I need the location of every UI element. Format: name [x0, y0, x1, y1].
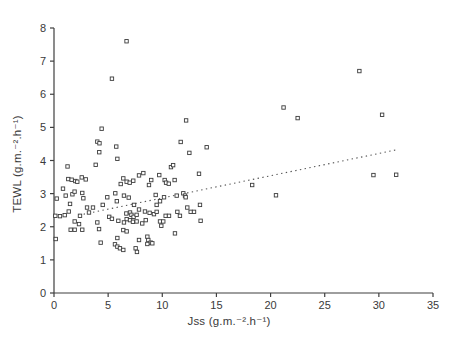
data-point	[148, 211, 151, 214]
data-point	[141, 222, 144, 225]
data-point	[61, 187, 64, 190]
data-point	[189, 210, 192, 213]
data-point	[116, 157, 119, 160]
data-point	[99, 241, 102, 244]
data-point	[155, 210, 158, 213]
data-point	[80, 176, 83, 179]
data-point	[137, 208, 140, 211]
data-point	[162, 220, 165, 223]
data-point	[116, 236, 119, 239]
data-point	[106, 196, 109, 199]
y-tick-label: 8	[40, 22, 46, 34]
data-point	[125, 230, 128, 233]
data-point	[73, 228, 76, 231]
data-point	[122, 177, 125, 180]
data-point	[122, 228, 125, 231]
data-point	[78, 214, 81, 217]
data-point	[358, 69, 361, 72]
data-point	[127, 196, 130, 199]
data-point	[176, 210, 179, 213]
data-point	[167, 182, 170, 185]
x-axis-label: Jss (g.m.⁻².h⁻¹)	[0, 314, 458, 328]
data-point	[142, 171, 145, 174]
data-point	[54, 214, 57, 217]
data-point	[155, 203, 158, 206]
data-point	[137, 174, 140, 177]
data-point	[274, 194, 277, 197]
data-point	[73, 220, 76, 223]
data-point	[184, 119, 187, 122]
data-point	[135, 250, 138, 253]
data-point	[175, 194, 178, 197]
data-point	[162, 196, 165, 199]
plot-canvas: 05101520253035012345678	[0, 0, 458, 340]
y-tick-label: 6	[40, 88, 46, 100]
x-tick-label: 15	[210, 299, 222, 311]
data-point	[296, 116, 299, 119]
data-point	[94, 163, 97, 166]
data-point	[82, 197, 85, 200]
y-tick-label: 0	[40, 287, 46, 299]
data-point	[160, 224, 163, 227]
data-point	[186, 206, 189, 209]
x-tick-label: 10	[156, 299, 168, 311]
data-point	[76, 180, 79, 183]
scatter-plot-figure: 05101520253035012345678 Jss (g.m.⁻².h⁻¹)…	[0, 0, 458, 340]
y-tick-label: 7	[40, 55, 46, 67]
data-point	[134, 247, 137, 250]
data-point	[150, 178, 153, 181]
data-point	[173, 232, 176, 235]
data-point	[372, 173, 375, 176]
data-point	[97, 227, 100, 230]
data-point	[146, 242, 149, 245]
data-point	[205, 146, 208, 149]
data-point	[64, 194, 67, 197]
data-point	[128, 181, 131, 184]
data-point	[197, 172, 200, 175]
data-point	[114, 192, 117, 195]
data-point	[87, 211, 90, 214]
data-point	[110, 77, 113, 80]
data-point	[84, 178, 87, 181]
data-point	[137, 238, 140, 241]
data-point	[115, 200, 118, 203]
data-point	[81, 228, 84, 231]
data-point	[54, 237, 57, 240]
y-tick-label: 3	[40, 188, 46, 200]
data-point	[188, 151, 191, 154]
data-point	[184, 196, 187, 199]
data-point	[151, 242, 154, 245]
data-point	[179, 140, 182, 143]
data-point	[118, 247, 121, 250]
y-tick-label: 4	[40, 155, 46, 167]
data-point	[135, 220, 138, 223]
x-tick-label: 0	[51, 299, 57, 311]
data-point	[147, 183, 150, 186]
data-point	[58, 214, 61, 217]
x-tick-label: 20	[264, 299, 276, 311]
data-point	[250, 183, 253, 186]
data-point	[81, 191, 84, 194]
data-point	[122, 221, 125, 224]
data-point	[77, 222, 80, 225]
data-point	[125, 212, 128, 215]
data-point	[66, 165, 69, 168]
data-point	[125, 40, 128, 43]
x-tick-label: 30	[373, 299, 385, 311]
data-point	[282, 106, 285, 109]
x-tick-label: 25	[319, 299, 331, 311]
data-point	[135, 213, 138, 216]
data-point	[68, 202, 71, 205]
y-tick-label: 5	[40, 121, 46, 133]
data-point	[380, 113, 383, 116]
data-point	[131, 220, 134, 223]
data-point	[143, 210, 146, 213]
data-point	[73, 190, 76, 193]
x-tick-label: 5	[105, 299, 111, 311]
data-point	[67, 210, 70, 213]
data-point	[164, 214, 167, 217]
y-axis-label: TEWL (g.m.⁻².h⁻¹)	[10, 94, 24, 234]
x-tick-label: 35	[427, 299, 439, 311]
data-point	[85, 206, 88, 209]
y-tick-label: 1	[40, 254, 46, 266]
